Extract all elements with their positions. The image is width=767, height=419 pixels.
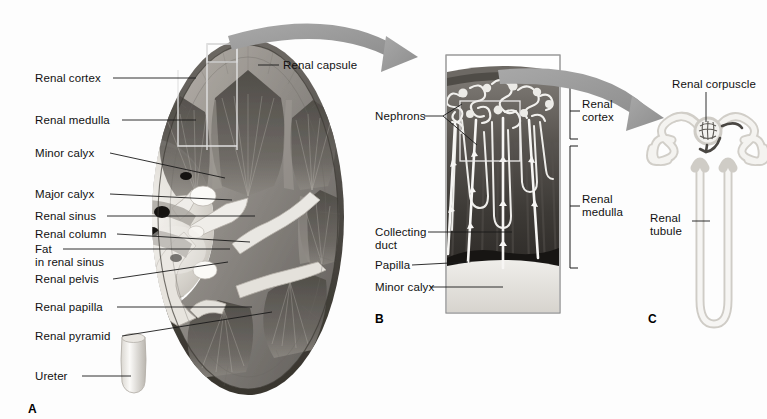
label-renal-tubule: Renal tubule — [650, 212, 682, 238]
label-nephrons: Nephrons — [375, 110, 426, 123]
label-renal-papilla: Renal papilla — [35, 301, 103, 314]
label-fat-in-renal-sinus: Fat in renal sinus — [35, 243, 104, 269]
panel-b-brackets — [570, 84, 580, 268]
anatomy-figure: Renal cortex Renal medulla Minor calyx M… — [0, 0, 767, 419]
label-renal-column: Renal column — [35, 228, 107, 241]
panel-b-illustration — [412, 55, 580, 313]
figure-canvas — [0, 0, 767, 419]
label-renal-medulla: Renal medulla — [35, 114, 110, 127]
label-collecting-duct: Collecting duct — [375, 226, 427, 252]
label-renal-cortex: Renal cortex — [35, 72, 101, 85]
label-ureter: Ureter — [35, 370, 68, 383]
label-minor-calyx-b: Minor calyx — [375, 281, 434, 294]
panel-c-nephron-illustration — [651, 92, 766, 324]
ureter-shape — [121, 334, 146, 394]
label-minor-calyx: Minor calyx — [35, 147, 94, 160]
label-major-calyx: Major calyx — [35, 188, 94, 201]
panel-letter-b: B — [375, 312, 384, 326]
label-renal-pyramid: Renal pyramid — [35, 330, 110, 343]
label-papilla: Papilla — [375, 259, 410, 272]
panel-letter-c: C — [648, 312, 657, 326]
panel-letter-a: A — [28, 402, 37, 416]
label-renal-sinus: Renal sinus — [35, 210, 96, 223]
label-renal-capsule: Renal capsule — [283, 59, 357, 72]
label-renal-cortex-bracket: Renal cortex — [582, 98, 614, 124]
label-renal-medulla-bracket: Renal medulla — [582, 193, 623, 219]
label-renal-corpuscle: Renal corpuscle — [672, 78, 756, 91]
label-renal-pelvis: Renal pelvis — [35, 273, 99, 286]
